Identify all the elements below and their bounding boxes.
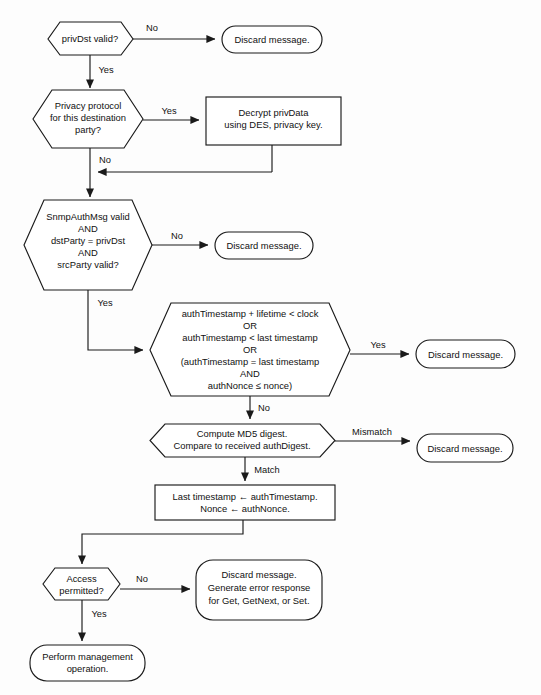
node-decrypt-privdata[interactable]: Decrypt privData using DES, privacy key.: [206, 97, 341, 145]
node-discard-3[interactable]: Discard message.: [416, 340, 515, 368]
node-label-line2: Nonce ← authNonce.: [200, 503, 290, 514]
node-label-line2: Generate error response: [208, 582, 311, 593]
node-discard-2[interactable]: Discard message.: [215, 232, 313, 259]
node-timestamp-checks[interactable]: authTimestamp + lifetime < clock OR auth…: [150, 303, 350, 396]
node-label-line6: AND: [240, 368, 260, 379]
node-label-line3: authTimestamp < last timestamp: [182, 332, 317, 343]
node-label-line1: Discard message.: [221, 569, 296, 580]
edge-label-privdst-yes: Yes: [98, 65, 114, 75]
node-label-line2: operation.: [67, 663, 109, 674]
node-label-line1: Privacy protocol: [55, 100, 122, 111]
edge-label-auth-no: No: [171, 231, 183, 241]
node-label: Discard message.: [428, 349, 503, 360]
node-priv-dst-valid[interactable]: privDst valid?: [48, 22, 133, 55]
node-label-line1: authTimestamp + lifetime < clock: [182, 308, 319, 319]
edge-auth-yes: [88, 290, 143, 350]
edge-label-privacy-no: No: [99, 155, 111, 165]
node-label-line2: Compare to received authDigest.: [173, 440, 310, 451]
edge-label-privdst-no: No: [146, 23, 158, 33]
node-label-line2: using DES, privacy key.: [224, 119, 322, 130]
edge-label-access-no: No: [136, 574, 148, 584]
flowchart-svg: privDst valid? Discard message. Privacy …: [0, 0, 541, 695]
node-label-line1: Access: [66, 573, 97, 584]
edge-label-access-yes: Yes: [91, 609, 107, 619]
node-label-line3: party?: [75, 124, 101, 135]
node-label-line4: AND: [78, 247, 98, 258]
node-perform-management[interactable]: Perform management operation.: [30, 645, 145, 681]
node-label-line5: srcParty valid?: [57, 259, 118, 270]
node-compute-md5[interactable]: Compute MD5 digest. Compare to received …: [150, 424, 335, 457]
edge-label-privacy-yes: Yes: [161, 106, 177, 116]
node-access-permitted[interactable]: Access permitted?: [43, 568, 120, 600]
node-label-line1: Compute MD5 digest.: [197, 428, 288, 439]
edge-label-auth-yes: Yes: [97, 298, 113, 308]
node-label: Discard message.: [234, 34, 309, 45]
node-discard-4[interactable]: Discard message.: [417, 434, 513, 462]
node-label-line5: (authTimestamp = last timestamp: [181, 356, 320, 367]
node-label-line2: AND: [78, 223, 98, 234]
node-label-line1: SnmpAuthMsg valid: [46, 211, 129, 222]
edge-label-timestamp-yes: Yes: [370, 340, 386, 350]
node-label-line3: dstParty = privDst: [51, 235, 126, 246]
edge-label-timestamp-no: No: [258, 403, 270, 413]
edge-update-to-access: [82, 520, 243, 564]
node-update-state[interactable]: Last timestamp ← authTimestamp. Nonce ← …: [155, 485, 335, 520]
node-label-line3: for Get, GetNext, or Set.: [208, 595, 309, 606]
node-privacy-protocol[interactable]: Privacy protocol for this destination pa…: [33, 90, 143, 148]
node-label-line2: permitted?: [59, 585, 103, 596]
node-label-line1: Perform management: [42, 651, 133, 662]
node-label-line2: OR: [243, 320, 257, 331]
flowchart-canvas: privDst valid? Discard message. Privacy …: [0, 0, 541, 695]
node-discard-1[interactable]: Discard message.: [222, 26, 322, 53]
edge-label-md5-match: Match: [254, 465, 279, 475]
node-label-line2: for this destination: [50, 112, 126, 123]
node-label-line1: Decrypt privData: [239, 107, 310, 118]
node-snmp-auth-msg-valid[interactable]: SnmpAuthMsg valid AND dstParty = privDst…: [24, 200, 152, 290]
edge-label-md5-mismatch: Mismatch: [352, 427, 392, 437]
node-label-line1: Last timestamp ← authTimestamp.: [172, 491, 317, 502]
node-label: privDst valid?: [62, 33, 118, 44]
node-label: Discard message.: [226, 240, 301, 251]
node-label-line4: OR: [243, 344, 257, 355]
node-discard-generate-error[interactable]: Discard message. Generate error response…: [196, 560, 322, 620]
node-label-line7: authNonce ≤ nonce): [208, 380, 292, 391]
node-label: Discard message.: [427, 443, 502, 454]
